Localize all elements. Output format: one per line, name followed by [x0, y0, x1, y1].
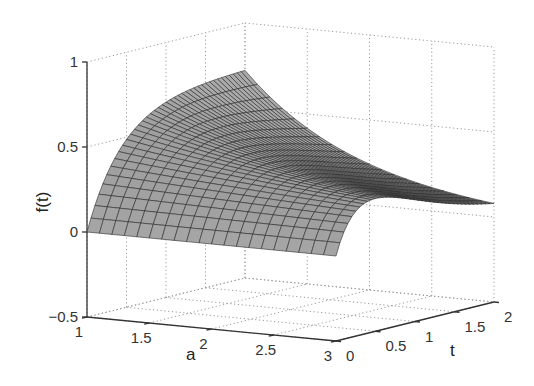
surface-mesh — [87, 70, 494, 256]
y-tick-label: 2 — [504, 308, 512, 325]
y-tick-label: 1.5 — [465, 318, 486, 335]
y-tick-label: 1 — [425, 328, 433, 345]
surface-plot: −0.500.5111.522.5300.511.52 a t f(t) — [0, 0, 534, 386]
z-tick-label: −0.5 — [48, 308, 78, 325]
z-tick-label: 1 — [70, 53, 78, 70]
y-axis-label: t — [450, 341, 455, 360]
x-tick-label: 2 — [199, 335, 207, 352]
y-tick-label: 0 — [346, 347, 354, 364]
z-tick-label: 0 — [70, 223, 78, 240]
x-axis-label: a — [186, 345, 196, 364]
x-tick-label: 1.5 — [131, 329, 152, 346]
z-axis-label: f(t) — [33, 192, 52, 213]
x-tick-label: 2.5 — [255, 341, 276, 358]
z-tick-label: 0.5 — [57, 138, 78, 155]
x-tick-label: 3 — [324, 347, 332, 364]
x-tick-label: 1 — [75, 323, 83, 340]
y-tick-label: 0.5 — [386, 337, 407, 354]
